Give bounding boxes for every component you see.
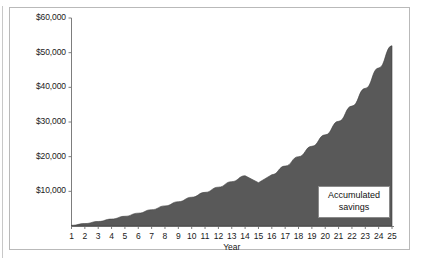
y-axis-tick-label: $20,000: [14, 151, 66, 161]
y-axis-tick-label: $40,000: [14, 81, 66, 91]
callout-line-1: Accumulated: [328, 190, 380, 200]
y-axis-tick-label: $60,000: [14, 12, 66, 22]
y-axis-tick-label: $10,000: [14, 185, 66, 195]
callout-line-2: savings: [339, 202, 370, 212]
chart-figure: $60,000$50,000$40,000$30,000$20,000$10,0…: [0, 0, 424, 264]
y-axis-tick-label: $50,000: [14, 47, 66, 57]
x-axis-title: Year: [192, 242, 272, 252]
accumulated-savings-callout: Accumulated savings: [318, 186, 390, 218]
x-axis-tick-label: 25: [382, 231, 402, 241]
area-chart-plot: [0, 0, 424, 264]
y-axis-tick-label: $30,000: [14, 116, 66, 126]
